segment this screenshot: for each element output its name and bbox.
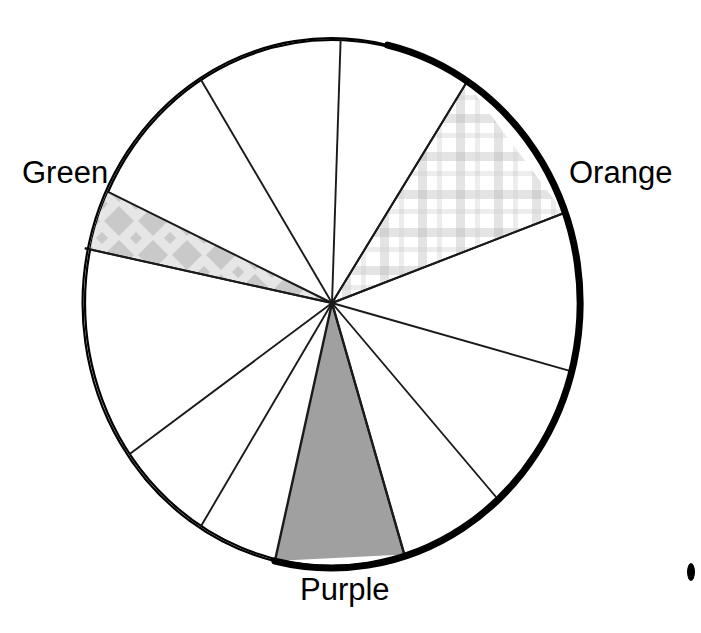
sector-label-green: Green bbox=[22, 155, 108, 191]
spinner-figure: Green Orange Purple bbox=[0, 0, 701, 633]
spinner-wheel-graphic bbox=[0, 0, 701, 633]
sector-label-orange: Orange bbox=[569, 155, 672, 191]
edge-tick-icon bbox=[687, 563, 695, 581]
sector-label-purple: Purple bbox=[300, 572, 390, 608]
